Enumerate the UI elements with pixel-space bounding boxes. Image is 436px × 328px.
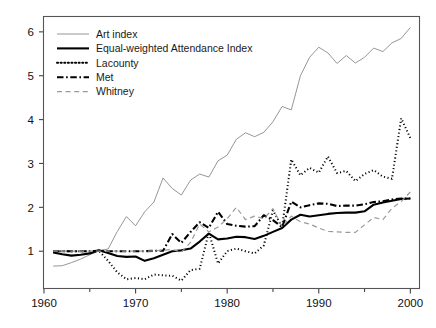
legend-label: Equal-weighted Attendance Index: [96, 42, 253, 54]
y-tick-label: 6: [28, 26, 34, 38]
line-chart: 19601970198019902000 123456 Art indexEqu…: [0, 0, 436, 328]
y-tick-label: 4: [28, 114, 35, 126]
x-tick-label: 1990: [306, 297, 332, 309]
legend-label: Lacounty: [96, 57, 139, 69]
legend-label: Whitney: [96, 85, 135, 97]
y-tick-label: 3: [28, 158, 34, 170]
chart-figure: 19601970198019902000 123456 Art indexEqu…: [0, 0, 436, 328]
x-tick-label: 1960: [31, 297, 57, 309]
x-tick-label: 2000: [398, 297, 424, 309]
x-tick-label: 1980: [214, 297, 240, 309]
legend-label: Art index: [96, 28, 138, 40]
legend-label: Met: [96, 71, 114, 83]
y-tick-label: 5: [28, 70, 34, 82]
y-tick-label: 1: [28, 245, 34, 257]
y-tick-label: 2: [28, 202, 34, 214]
x-tick-label: 1970: [123, 297, 149, 309]
